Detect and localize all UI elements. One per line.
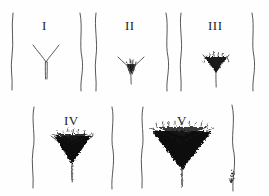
stage-label-3: III [208, 19, 223, 32]
stage-label-5: V [177, 114, 187, 127]
body-outline-right-stage-5 [232, 105, 235, 191]
inguinal-crease-left-stage-1 [33, 45, 46, 62]
hair-stage-4 [54, 134, 91, 164]
hair-stage-5 [152, 127, 212, 170]
body-outline-left-stage-3 [180, 13, 181, 91]
stage-label-4: IV [64, 114, 79, 127]
hair-stage-3 [205, 57, 227, 73]
body-outline-left-stage-4 [32, 107, 34, 188]
tanner-stages-figure: I II III IV V [0, 0, 269, 196]
body-outline-right-stage-3 [252, 13, 255, 91]
body-outline-right-stage-4 [112, 107, 114, 189]
body-outline-left-stage-5 [141, 107, 143, 188]
body-outline-right-stage-2 [166, 13, 169, 91]
stage-label-1: I [42, 19, 47, 32]
body-outline-right-stage-1 [80, 13, 83, 91]
body-outline-left-stage-1 [11, 13, 13, 90]
body-outline-left-stage-2 [95, 13, 96, 91]
stage-label-2: II [125, 19, 135, 32]
inguinal-crease-right-stage-1 [46, 45, 59, 62]
